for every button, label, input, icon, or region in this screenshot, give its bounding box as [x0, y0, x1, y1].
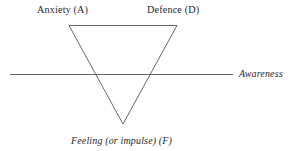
label-awareness: Awareness: [239, 69, 283, 79]
triangle-of-conflict-figure: Anxiety (A) Defence (D) Awareness Feelin…: [0, 0, 299, 151]
label-feeling: Feeling (or impulse) (F): [71, 136, 172, 146]
label-anxiety: Anxiety (A): [37, 5, 88, 15]
label-defence: Defence (D): [147, 5, 199, 15]
